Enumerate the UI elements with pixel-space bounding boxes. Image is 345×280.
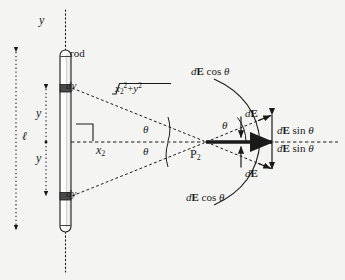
dE-cos-top-cos: cos bbox=[204, 65, 224, 77]
dE-sin-top-E: E bbox=[283, 124, 290, 136]
y-axis-label: y bbox=[39, 14, 44, 26]
dy-bottom-label: dy bbox=[66, 188, 76, 199]
point-p2-label: P2 bbox=[190, 148, 201, 162]
x-distance-subscript: 2 bbox=[101, 149, 105, 158]
theta-at-p2-label: θ bbox=[222, 120, 227, 131]
dy-top-label: dy bbox=[66, 80, 76, 91]
dE-sin-bot-theta: θ bbox=[308, 142, 313, 154]
theta-upper-label: θ bbox=[143, 124, 148, 135]
x-distance-label: x2 bbox=[96, 144, 105, 158]
dE-cos-top-E: E bbox=[197, 65, 204, 77]
dE-vector-lower-head bbox=[258, 163, 271, 168]
dE-sin-theta-bottom-label: dE sin θ bbox=[277, 143, 314, 154]
theta-lower-label: θ bbox=[143, 146, 148, 157]
dE-sin-bot-sin: sin bbox=[290, 142, 308, 154]
dE-vector-upper-head bbox=[258, 116, 271, 121]
dE-cos-bot-theta: θ bbox=[219, 191, 224, 203]
dE-sin-top-theta: θ bbox=[308, 124, 313, 136]
rod-label: rod bbox=[70, 48, 85, 59]
hypotenuse-label: x22+y2 bbox=[115, 83, 142, 96]
dE-cos-theta-top-label: dE cos θ bbox=[191, 66, 229, 77]
right-angle-mark bbox=[76, 124, 93, 141]
dE-top-E: E bbox=[251, 107, 258, 119]
rod-body bbox=[60, 50, 71, 232]
dE-bot-E: E bbox=[251, 167, 258, 179]
y-lower-label: y bbox=[36, 152, 41, 164]
dE-sin-theta-top-label: dE sin θ bbox=[277, 125, 314, 136]
rod-field-diagram bbox=[0, 0, 345, 280]
dE-vector-top-label: dE bbox=[245, 108, 258, 119]
dE-vector-bottom-label: dE bbox=[245, 168, 258, 179]
theta-arc-upper bbox=[168, 117, 170, 141]
dE-sin-top-sin: sin bbox=[290, 124, 308, 136]
dE-cos-bot-cos: cos bbox=[199, 191, 219, 203]
dE-cos-theta-bottom-label: dE cos θ bbox=[186, 192, 224, 203]
rod-midpoint-dot bbox=[45, 141, 48, 144]
point-subscript: 2 bbox=[197, 153, 201, 162]
theta-arc-at-p2 bbox=[238, 118, 247, 143]
dE-cos-top-theta: θ bbox=[224, 65, 229, 77]
radical-y-superscript: 2 bbox=[138, 82, 142, 90]
point-symbol: P bbox=[190, 147, 197, 161]
ray-lower-element-to-p2 bbox=[72, 143, 204, 196]
y-upper-label: y bbox=[36, 107, 41, 119]
theta-arc-lower bbox=[166, 143, 168, 167]
rod-length-label: ℓ bbox=[22, 130, 27, 142]
dE-sin-bot-E: E bbox=[283, 142, 290, 154]
dE-cos-bot-E: E bbox=[192, 191, 199, 203]
